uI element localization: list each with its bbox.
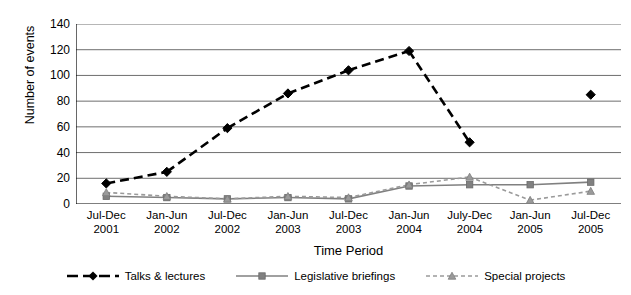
data-point-square <box>588 179 594 185</box>
legend-key-triangle-icon <box>425 269 479 283</box>
legend-item-3[interactable]: Special projects <box>425 269 565 283</box>
series-line-1 <box>288 70 349 93</box>
x-tick-label-period: Jul-Dec <box>549 208 631 222</box>
legend-marker-square <box>259 273 265 279</box>
gridlines <box>76 24 621 178</box>
data-point-square <box>466 182 472 188</box>
series-markers <box>102 46 596 203</box>
x-tick-label-year: 2005 <box>549 222 631 236</box>
plot-area <box>76 24 621 204</box>
legend-key-diamond-icon <box>66 269 120 283</box>
legend-key-square-icon <box>235 269 289 283</box>
legend-item-1[interactable]: Talks & lectures <box>66 269 206 283</box>
y-tick-label: 120 <box>36 44 70 56</box>
data-point-diamond <box>586 90 595 99</box>
y-tick-label: 60 <box>36 121 70 133</box>
x-axis-title: Time Period <box>76 243 621 258</box>
series-line-1 <box>349 51 410 70</box>
data-point-square <box>527 182 533 188</box>
data-point-diamond <box>283 89 292 98</box>
series-line-1 <box>167 128 228 172</box>
series-line-2 <box>409 185 470 186</box>
series-line-3 <box>530 191 591 200</box>
chart-legend: Talks & lecturesLegislative briefingsSpe… <box>0 263 631 289</box>
y-tick-label: 100 <box>36 69 70 81</box>
legend-label: Legislative briefings <box>294 270 395 282</box>
y-tick-label: 20 <box>36 172 70 184</box>
series-line-3 <box>470 177 531 200</box>
data-point-diamond <box>102 179 111 188</box>
x-tick-label: Jul-Dec2005 <box>549 208 631 236</box>
legend-label: Special projects <box>484 270 565 282</box>
y-tick-label: 40 <box>36 147 70 159</box>
series-line-2 <box>530 182 591 185</box>
series-line-2 <box>349 186 410 199</box>
series-line-3 <box>349 185 410 198</box>
line-chart: Number of events 140 120 100 80 60 40 20… <box>0 0 631 295</box>
series-line-1 <box>227 93 288 128</box>
series-line-1 <box>106 172 167 184</box>
axis-lines <box>76 24 621 204</box>
series-line-1 <box>409 51 470 142</box>
y-axis-tick-labels: 140 120 100 80 60 40 20 0 <box>36 24 70 204</box>
data-point-diamond <box>344 66 353 75</box>
y-tick-label: 80 <box>36 95 70 107</box>
legend-label: Talks & lectures <box>125 270 206 282</box>
plot-svg <box>76 24 621 204</box>
y-tick-label: 140 <box>36 18 70 30</box>
legend-marker-diamond <box>88 271 97 280</box>
y-axis-title: Number of events <box>23 0 37 165</box>
x-axis-tick-labels: Jul-Dec2001Jan-Jun2002Jul-Dec2002Jan-Jun… <box>76 208 621 242</box>
legend-item-2[interactable]: Legislative briefings <box>235 269 395 283</box>
